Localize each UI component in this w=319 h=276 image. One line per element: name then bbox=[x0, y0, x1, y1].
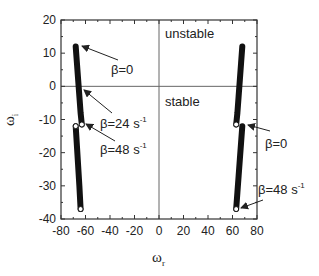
y-axis-title: ωi bbox=[1, 113, 20, 126]
data-series bbox=[73, 47, 242, 212]
y-tick-label: 10 bbox=[43, 46, 57, 60]
x-tick-label: -20 bbox=[126, 224, 144, 238]
open-circle-marker bbox=[73, 124, 78, 129]
annotation-arrow bbox=[82, 46, 118, 60]
annotation-label: β=24 s-1 bbox=[100, 115, 147, 131]
y-tick-label: 20 bbox=[43, 13, 57, 27]
x-tick-label: 60 bbox=[226, 224, 240, 238]
y-tick-label: -20 bbox=[39, 146, 57, 160]
x-axis-title: ωr bbox=[152, 249, 165, 268]
region-label-unstable: unstable bbox=[165, 26, 214, 41]
curve-right-lower-branch bbox=[236, 126, 242, 209]
x-tick-label: -60 bbox=[77, 224, 95, 238]
annotations: β=0β=24 s-1β=48 s-1β=0β=48 s-1 bbox=[82, 46, 305, 208]
annotation-arrow bbox=[241, 200, 263, 208]
annotation-label: β=0 bbox=[111, 62, 133, 77]
annotation-arrow bbox=[84, 90, 112, 113]
x-tick-label: 20 bbox=[177, 224, 191, 238]
region-labels: unstablestable bbox=[165, 26, 214, 109]
region-label-stable: stable bbox=[165, 94, 200, 109]
curve-left-upper-branch bbox=[76, 47, 82, 125]
annotation-label: β=48 s-1 bbox=[100, 141, 147, 157]
open-circle-marker bbox=[79, 122, 84, 127]
y-tick-label: -30 bbox=[39, 179, 57, 193]
x-tick-label: -80 bbox=[52, 224, 70, 238]
chart-svg: -80-60-40-2002040608020100-10-20-30-40 u… bbox=[0, 0, 319, 276]
x-tick-label: 40 bbox=[201, 224, 215, 238]
tick-labels: -80-60-40-2002040608020100-10-20-30-40 bbox=[39, 13, 264, 238]
y-tick-label: -40 bbox=[39, 212, 57, 226]
annotation-arrow bbox=[248, 125, 270, 131]
open-circle-marker bbox=[234, 207, 239, 212]
open-circle-marker bbox=[234, 122, 239, 127]
x-tick-label: -40 bbox=[101, 224, 119, 238]
open-circle-marker bbox=[78, 207, 83, 212]
reference-lines bbox=[61, 20, 257, 219]
annotation-label: β=48 s-1 bbox=[258, 181, 305, 197]
annotation-label: β=0 bbox=[265, 136, 287, 151]
y-tick-label: -10 bbox=[39, 113, 57, 127]
curve-right-upper-branch bbox=[236, 47, 242, 125]
x-tick-label: 80 bbox=[250, 224, 264, 238]
curve-left-lower-branch bbox=[76, 126, 81, 209]
y-tick-label: 0 bbox=[49, 79, 56, 93]
x-tick-label: 0 bbox=[156, 224, 163, 238]
